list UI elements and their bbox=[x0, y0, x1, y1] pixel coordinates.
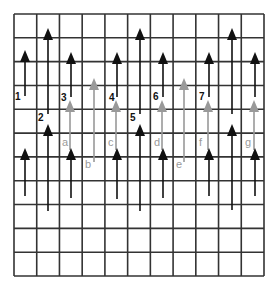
number-label: 4 bbox=[109, 92, 115, 103]
letter-label: g bbox=[245, 136, 251, 148]
black-arrow bbox=[227, 124, 237, 210]
arrow-head-icon bbox=[227, 28, 237, 40]
black-arrow bbox=[227, 28, 237, 114]
number-label: 1 bbox=[15, 91, 21, 102]
letter-label: f bbox=[199, 136, 203, 148]
black-arrow bbox=[204, 52, 214, 97]
arrow-head-icon bbox=[43, 124, 53, 136]
number-label: 6 bbox=[153, 91, 159, 102]
arrow-head-icon bbox=[204, 52, 214, 64]
arrow-head-icon bbox=[135, 124, 145, 136]
number-label: 7 bbox=[199, 91, 205, 102]
arrow-head-icon bbox=[158, 148, 168, 160]
gray-arrows bbox=[65, 78, 259, 162]
letter-label: a bbox=[62, 136, 69, 148]
number-label: 2 bbox=[38, 112, 44, 123]
black-arrow bbox=[135, 28, 145, 114]
black-arrow bbox=[20, 148, 30, 196]
number-label: 5 bbox=[130, 112, 136, 123]
arrow-head-icon bbox=[66, 148, 76, 160]
black-arrow bbox=[66, 148, 76, 198]
letter-label: e bbox=[176, 158, 182, 170]
arrow-head-icon bbox=[179, 78, 189, 90]
arrow-head-icon bbox=[20, 50, 30, 62]
arrow-grid-diagram: 1234567abcdefg bbox=[0, 0, 278, 296]
grid bbox=[14, 14, 264, 276]
gray-arrow bbox=[179, 78, 189, 162]
black-arrow bbox=[20, 50, 30, 96]
number-label: 3 bbox=[61, 92, 67, 103]
black-arrow bbox=[43, 124, 53, 211]
gray-arrow bbox=[89, 78, 99, 162]
arrow-head-icon bbox=[204, 148, 214, 160]
black-arrow bbox=[112, 148, 122, 199]
black-arrow bbox=[66, 52, 76, 97]
black-arrow bbox=[250, 52, 260, 97]
arrow-head-icon bbox=[112, 148, 122, 160]
letter-label: d bbox=[154, 136, 160, 148]
arrow-head-icon bbox=[89, 78, 99, 90]
black-arrow bbox=[158, 52, 168, 97]
black-arrow bbox=[43, 28, 53, 114]
black-arrow bbox=[204, 148, 214, 196]
arrow-head-icon bbox=[227, 124, 237, 136]
arrow-head-icon bbox=[249, 100, 259, 112]
gray-arrow bbox=[203, 100, 213, 150]
arrow-head-icon bbox=[66, 52, 76, 64]
arrow-head-icon bbox=[135, 28, 145, 40]
arrow-head-icon bbox=[250, 52, 260, 64]
arrow-head-icon bbox=[20, 148, 30, 160]
arrow-head-icon bbox=[250, 148, 260, 160]
black-arrow bbox=[158, 148, 168, 198]
letter-label: c bbox=[108, 136, 114, 148]
black-arrow bbox=[112, 52, 122, 97]
arrow-head-icon bbox=[158, 52, 168, 64]
black-arrows bbox=[20, 28, 260, 211]
letter-label: b bbox=[85, 158, 91, 170]
arrow-head-icon bbox=[43, 28, 53, 40]
arrow-head-icon bbox=[112, 52, 122, 64]
black-arrow bbox=[135, 124, 145, 211]
black-arrow bbox=[250, 148, 260, 196]
